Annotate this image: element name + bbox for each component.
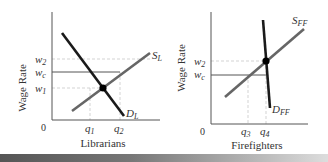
tick-wc: wc — [35, 66, 46, 80]
y-axis-label: Wage Rate — [175, 44, 187, 92]
tick-w2: w2 — [194, 55, 205, 69]
y-axis-label: Wage Rate — [16, 64, 28, 112]
supply-label: SL — [152, 49, 163, 63]
x-axis-label: Firefighters — [231, 139, 282, 151]
page-edge-bar — [0, 154, 328, 162]
equilibrium-point — [262, 57, 269, 64]
firefighters-chart: Wage Rate w2 wc 0 q3 q4 Firefighters SFF… — [175, 12, 308, 151]
tick-w2: w2 — [35, 53, 46, 67]
tick-q1: q1 — [85, 122, 95, 136]
demand-label: DFF — [271, 103, 290, 117]
origin-label: 0 — [200, 126, 205, 137]
supply-label: SFF — [292, 14, 307, 28]
tick-wc: wc — [194, 68, 205, 82]
tick-q4: q4 — [260, 125, 270, 139]
demand-curve — [62, 33, 124, 116]
tick-q2: q2 — [114, 122, 124, 136]
tick-w1: w1 — [35, 82, 46, 96]
x-axis-label: Librarians — [80, 137, 125, 149]
tick-q3: q3 — [241, 125, 251, 139]
demand-label: DL — [125, 107, 139, 121]
librarians-chart: Wage Rate w2 wc w1 0 q1 q2 Librarians SL… — [16, 12, 163, 149]
origin-label: 0 — [41, 122, 46, 133]
equilibrium-point — [99, 84, 106, 91]
